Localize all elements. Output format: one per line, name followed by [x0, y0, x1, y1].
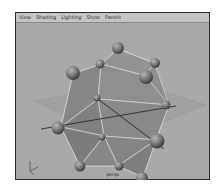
menu-shading[interactable]: Shading [36, 13, 56, 22]
panel-menubar: View Shading Lighting Show Panels [16, 13, 209, 23]
menu-lighting[interactable]: Lighting [61, 13, 81, 22]
menu-view[interactable]: View [19, 13, 31, 22]
camera-name-label: persp [16, 172, 209, 177]
viewport-panel: View Shading Lighting Show Panels [15, 12, 210, 180]
scene-render [16, 23, 209, 180]
3d-viewport[interactable]: persp [16, 23, 209, 179]
menu-panels[interactable]: Panels [105, 13, 121, 22]
menu-show[interactable]: Show [86, 13, 100, 22]
